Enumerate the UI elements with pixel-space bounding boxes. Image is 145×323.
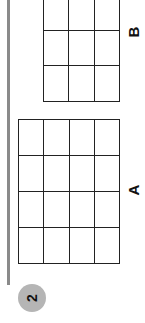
grid-cell	[44, 228, 69, 264]
grid-cell	[70, 120, 95, 156]
grid-cell	[70, 228, 95, 264]
grid-cell	[19, 120, 44, 156]
grid-cell	[95, 0, 120, 31]
grid-a-label: A	[126, 182, 142, 198]
grid-cell	[44, 31, 69, 67]
grid-cell	[70, 192, 95, 228]
grid-b	[43, 0, 120, 102]
grid-cell	[44, 0, 69, 31]
grid-a	[18, 119, 120, 264]
grid-cell	[69, 66, 94, 102]
grid-cell	[95, 120, 120, 156]
grid-cell	[95, 192, 120, 228]
grid-cell	[44, 156, 69, 192]
grid-b-label: B	[126, 24, 142, 40]
grid-cell	[95, 156, 120, 192]
grid-cell	[69, 31, 94, 67]
grid-cell	[44, 120, 69, 156]
grid-cell	[95, 66, 120, 102]
grid-cell	[19, 192, 44, 228]
grid-cell	[19, 228, 44, 264]
grid-cell	[44, 192, 69, 228]
margin-bar	[7, 0, 10, 285]
grid-cell	[95, 228, 120, 264]
question-number-badge: 2	[18, 284, 46, 312]
grid-cell	[44, 66, 69, 102]
grid-cell	[70, 156, 95, 192]
grid-cell	[69, 0, 94, 31]
grid-cell	[19, 156, 44, 192]
grid-cell	[95, 31, 120, 67]
